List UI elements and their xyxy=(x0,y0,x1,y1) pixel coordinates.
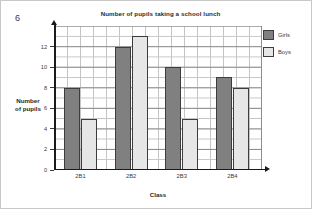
bar-2b3-boys xyxy=(182,119,198,170)
x-axis-tick-label: 2B4 xyxy=(211,173,253,179)
x-axis-tick-label: 2B2 xyxy=(110,173,152,179)
plot-area xyxy=(54,26,262,170)
bar-2b2-boys xyxy=(132,36,148,170)
y-axis-tick xyxy=(50,170,54,171)
bar-2b1-girls xyxy=(64,88,80,170)
bar-2b3-girls xyxy=(165,67,181,170)
y-axis-tick xyxy=(50,128,54,129)
y-axis-tick xyxy=(50,149,54,150)
chart-title: Number of pupils taking a school lunch xyxy=(53,10,268,17)
legend-item-boys: Boys xyxy=(263,47,291,57)
bar-2b1-boys xyxy=(81,119,97,170)
x-axis-tick-label: 2B1 xyxy=(60,173,102,179)
legend-label: Boys xyxy=(278,49,291,55)
y-axis-tick-label: 0 xyxy=(33,167,47,173)
y-axis-line xyxy=(54,23,56,170)
x-axis-arrow-icon xyxy=(265,166,270,172)
y-axis-tick-label: 4 xyxy=(33,126,47,132)
x-axis-line xyxy=(54,169,267,171)
bar-2b2-girls xyxy=(115,47,131,170)
legend-label: Girls xyxy=(278,32,290,38)
y-axis-title: Number of pupils xyxy=(9,97,47,112)
x-axis-tick-label: 2B3 xyxy=(161,173,203,179)
question-number: 6 xyxy=(15,13,20,23)
y-axis-tick-label: 10 xyxy=(33,64,47,70)
y-axis-tick xyxy=(50,46,54,47)
chart-figure: 6 Number of pupils taking a school lunch… xyxy=(0,0,312,209)
y-axis-tick-label: 12 xyxy=(33,44,47,50)
legend-item-girls: Girls xyxy=(263,30,291,40)
bar-2b4-boys xyxy=(233,88,249,170)
y-axis-tick-label: 8 xyxy=(33,85,47,91)
legend: GirlsBoys xyxy=(263,30,291,64)
y-axis-tick xyxy=(50,67,54,68)
legend-swatch-icon xyxy=(263,30,274,40)
y-axis-title-line2: of pupils xyxy=(9,105,47,113)
y-axis-tick xyxy=(50,87,54,88)
x-axis-title: Class xyxy=(54,191,262,198)
y-axis-tick-label: 2 xyxy=(33,146,47,152)
y-axis-tick xyxy=(50,108,54,109)
legend-swatch-icon xyxy=(263,47,274,57)
y-axis-title-line1: Number xyxy=(9,97,47,105)
y-axis-arrow-icon xyxy=(51,20,57,25)
bar-2b4-girls xyxy=(216,77,232,170)
